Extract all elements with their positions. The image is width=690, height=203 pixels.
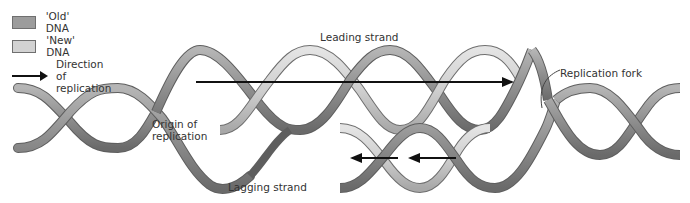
origin-label-line2: replication (152, 130, 207, 142)
leading-strand-label: Leading strand (320, 31, 398, 43)
origin-label-line1: Origin of (152, 118, 207, 130)
arrow-right-icon (12, 75, 44, 77)
leading-helix (156, 50, 548, 130)
lagging-strand-label: Lagging strand (228, 181, 307, 193)
direction-label-line1: Direction of (56, 58, 113, 82)
lagging-helix (250, 100, 556, 188)
old-dna-label: 'Old' DNA (46, 10, 80, 34)
new-dna-label: 'New' DNA (46, 34, 84, 58)
direction-label: Direction of replication (56, 58, 113, 94)
replication-fork-label: Replication fork (560, 67, 642, 79)
new-dna-swatch (12, 40, 36, 53)
legend-direction: Direction of replication (12, 58, 113, 94)
parental-helix-left (18, 88, 250, 189)
legend-new-dna: 'New' DNA (12, 34, 85, 58)
direction-label-line2: replication (56, 82, 113, 94)
parental-helix-right (548, 88, 680, 155)
origin-label: Origin of replication (152, 118, 207, 142)
legend-old-dna: 'Old' DNA (12, 10, 80, 34)
old-dna-swatch (12, 16, 36, 29)
